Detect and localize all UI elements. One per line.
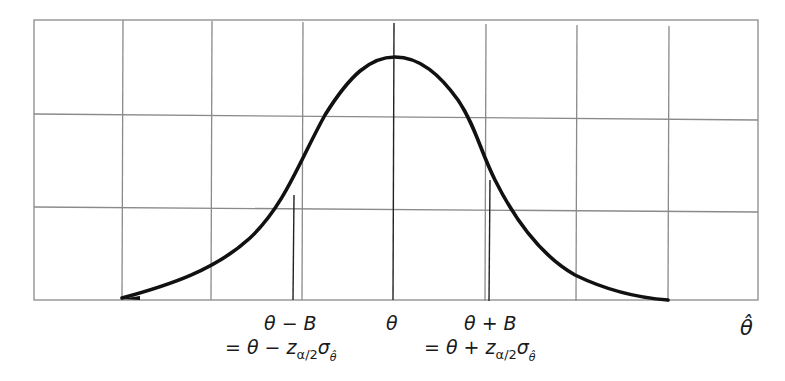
density-curve: [122, 57, 668, 300]
grid-vline: [211, 21, 212, 300]
lower-eq-subscript: α/2: [297, 347, 318, 362]
lower-bound-main: θ − B: [264, 312, 317, 334]
upper-eq-prefix: = θ + z: [424, 336, 496, 358]
center-theta: θ: [386, 312, 398, 334]
upper-eq-sigma-subscript: θ̂: [529, 351, 536, 364]
grid-vline: [122, 20, 123, 300]
upper-bound-line: [489, 180, 490, 301]
x-axis-label: θ̂: [740, 316, 753, 340]
lower-bound-label: θ − B: [264, 312, 317, 334]
center-marker-line: [393, 23, 394, 300]
upper-bound-main: θ + B: [464, 312, 517, 334]
upper-bound-equation: = θ + zα/2σθ̂: [424, 336, 536, 358]
lower-eq-prefix: = θ − z: [225, 336, 297, 358]
theta-hat-label: θ̂: [740, 316, 753, 340]
upper-eq-subscript: α/2: [496, 347, 517, 362]
upper-eq-sigma: σ: [517, 336, 529, 358]
grid-vline: [576, 25, 577, 301]
lower-eq-sigma: σ: [318, 336, 330, 358]
upper-bound-label: θ + B: [464, 312, 517, 334]
grid: [34, 20, 758, 302]
lower-bound-equation: = θ − zα/2σθ̂: [225, 336, 337, 358]
grid-border: [34, 20, 758, 300]
lower-bound-line: [293, 195, 294, 300]
grid-hline: [34, 207, 758, 212]
grid-vline: [668, 26, 669, 302]
center-label: θ: [386, 312, 398, 334]
lower-eq-sigma-subscript: θ̂: [330, 351, 337, 364]
grid-hline: [34, 114, 758, 120]
marker-lines: [293, 23, 490, 301]
